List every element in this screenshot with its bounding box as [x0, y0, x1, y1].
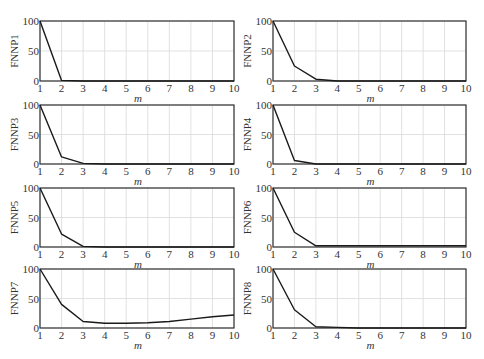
- x-axis-label: m: [134, 175, 142, 187]
- x-tick-label: 7: [399, 329, 405, 341]
- x-tick-label: 10: [229, 82, 241, 94]
- grid-lines: [40, 21, 234, 81]
- y-tick-label: 0: [267, 158, 273, 170]
- x-tick-label: 7: [167, 329, 173, 341]
- x-tick-label: 6: [145, 329, 151, 341]
- y-tick-label: 50: [28, 212, 40, 224]
- y-tick-label: 0: [267, 241, 273, 253]
- y-tick-label: 100: [256, 15, 273, 27]
- y-tick-label: 50: [28, 293, 40, 305]
- x-tick-label: 10: [461, 248, 473, 260]
- x-tick-label: 3: [313, 165, 319, 177]
- x-axis-label: m: [367, 258, 375, 270]
- x-tick-label: 10: [229, 165, 241, 177]
- x-tick-label: 2: [59, 165, 65, 177]
- grid-lines: [273, 105, 466, 164]
- x-tick-label: 8: [188, 82, 194, 94]
- x-tick-label: 6: [377, 248, 383, 260]
- y-tick-label: 50: [261, 212, 273, 224]
- x-tick-label: 3: [313, 82, 319, 94]
- grid-lines: [40, 269, 234, 328]
- x-tick-label: 9: [442, 329, 448, 341]
- x-tick-label: 7: [167, 248, 173, 260]
- x-tick-label: 5: [356, 82, 362, 94]
- x-tick-label: 8: [420, 329, 426, 341]
- x-axis-label: m: [134, 92, 142, 104]
- x-tick-label: 5: [356, 165, 362, 177]
- y-tick-label: 0: [267, 75, 273, 87]
- y-tick-label: 0: [34, 75, 40, 87]
- x-tick-label: 5: [123, 82, 129, 94]
- y-tick-label: 100: [256, 263, 273, 275]
- x-tick-label: 5: [123, 248, 129, 260]
- x-tick-label: 6: [377, 329, 383, 341]
- data-series-line: [40, 269, 234, 323]
- grid-lines: [273, 188, 466, 247]
- x-tick-label: 9: [210, 165, 216, 177]
- x-tick-label: 5: [356, 248, 362, 260]
- data-series-line: [273, 188, 466, 246]
- y-axis-label: FNNP8: [241, 281, 253, 315]
- x-tick-label: 3: [313, 329, 319, 341]
- y-tick-label: 50: [261, 45, 273, 57]
- x-tick-label: 5: [123, 329, 129, 341]
- x-tick-label: 6: [145, 82, 151, 94]
- x-tick-label: 7: [167, 165, 173, 177]
- y-axis-label: FNNP3: [8, 117, 20, 151]
- x-tick-label: 8: [420, 82, 426, 94]
- grid-lines: [40, 105, 234, 164]
- subplot-fnnp2: 12345678910050100mFNNP2: [241, 15, 472, 104]
- x-tick-label: 9: [210, 82, 216, 94]
- y-tick-label: 50: [261, 293, 273, 305]
- x-axis-label: m: [134, 339, 142, 351]
- x-tick-label: 9: [442, 248, 448, 260]
- x-tick-label: 3: [313, 248, 319, 260]
- x-tick-label: 9: [210, 248, 216, 260]
- x-tick-label: 6: [145, 248, 151, 260]
- y-tick-label: 0: [34, 322, 40, 334]
- x-tick-label: 7: [399, 248, 405, 260]
- x-tick-label: 6: [377, 82, 383, 94]
- x-tick-label: 2: [59, 248, 65, 260]
- y-axis-label: FNNP1: [8, 34, 20, 68]
- x-tick-label: 4: [102, 82, 108, 94]
- x-tick-label: 3: [80, 329, 86, 341]
- x-tick-label: 7: [399, 82, 405, 94]
- x-tick-label: 8: [188, 329, 194, 341]
- x-tick-label: 10: [461, 329, 473, 341]
- x-tick-label: 6: [377, 165, 383, 177]
- y-axis-label: FNNP5: [8, 200, 20, 234]
- x-tick-label: 8: [188, 248, 194, 260]
- x-tick-label: 8: [420, 248, 426, 260]
- grid-lines: [273, 269, 466, 328]
- y-tick-label: 100: [23, 99, 40, 111]
- subplot-fnnp4: 12345678910050100mFNNP4: [241, 99, 472, 187]
- y-axis-label: FNNP4: [241, 117, 253, 151]
- y-axis-label: FNNP2: [241, 34, 253, 68]
- y-tick-label: 50: [261, 129, 273, 141]
- x-tick-label: 3: [80, 165, 86, 177]
- figure-canvas: 12345678910050100mFNNP112345678910050100…: [0, 0, 484, 359]
- x-tick-label: 4: [102, 248, 108, 260]
- x-tick-label: 2: [292, 248, 298, 260]
- x-tick-label: 6: [145, 165, 151, 177]
- x-axis-label: m: [134, 258, 142, 270]
- x-axis-label: m: [367, 92, 375, 104]
- y-tick-label: 100: [23, 263, 40, 275]
- subplot-fnnp7: 12345678910050100mFNNP7: [8, 263, 240, 351]
- x-tick-label: 8: [188, 165, 194, 177]
- y-axis-label: FNNP6: [241, 200, 253, 234]
- x-tick-label: 3: [80, 82, 86, 94]
- x-tick-label: 3: [80, 248, 86, 260]
- y-tick-label: 0: [34, 158, 40, 170]
- x-tick-label: 2: [292, 165, 298, 177]
- x-axis-label: m: [367, 175, 375, 187]
- x-tick-label: 4: [335, 248, 341, 260]
- x-tick-label: 2: [59, 329, 65, 341]
- x-tick-label: 10: [461, 165, 473, 177]
- y-tick-label: 0: [267, 322, 273, 334]
- y-tick-label: 100: [23, 15, 40, 27]
- x-tick-label: 10: [461, 82, 473, 94]
- y-tick-label: 50: [28, 45, 40, 57]
- x-tick-label: 5: [123, 165, 129, 177]
